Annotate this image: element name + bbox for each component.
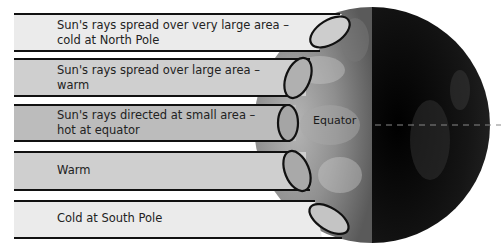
equator-label: Equator	[313, 114, 356, 127]
band-label-line: Warm	[57, 163, 90, 178]
band-label-line: cold at North Pole	[57, 33, 289, 48]
band-label-equator: Sun's rays directed at small area – hot …	[57, 108, 255, 138]
band-label-warm-north: Sun's rays spread over large area – warm	[57, 63, 260, 93]
band-label-line: Sun's rays spread over large area –	[57, 63, 260, 78]
band-label-warm-south: Warm	[57, 163, 90, 178]
band-label-line: warm	[57, 78, 260, 93]
band-label-line: Sun's rays directed at small area –	[57, 108, 255, 123]
band-label-line: Cold at South Pole	[57, 211, 162, 226]
band-label-south-pole: Cold at South Pole	[57, 211, 162, 226]
band-label-line: Sun's rays spread over very large area –	[57, 18, 289, 33]
band-label-line: hot at equator	[57, 123, 255, 138]
ray-footprint	[278, 105, 298, 141]
band-label-north-pole: Sun's rays spread over very large area –…	[57, 18, 289, 48]
